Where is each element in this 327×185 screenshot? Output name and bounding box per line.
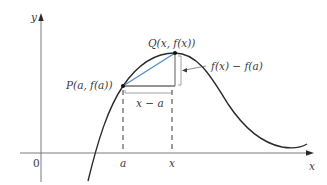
y-axis-label: y bbox=[30, 11, 38, 23]
x-axis-arrow-icon bbox=[306, 150, 314, 155]
rise-bracket bbox=[178, 56, 181, 85]
y-axis-arrow-icon bbox=[38, 13, 43, 21]
rise-leader-arrow-icon bbox=[182, 68, 187, 73]
point-q bbox=[173, 51, 177, 55]
x-axis-label: x bbox=[309, 160, 315, 172]
run-bracket bbox=[125, 90, 172, 93]
secant-line bbox=[123, 53, 175, 86]
point-p bbox=[121, 84, 125, 88]
point-p-label: P(a, f(a)) bbox=[65, 79, 113, 91]
point-q-label: Q(x, f(x)) bbox=[148, 37, 195, 50]
tick-label-a: a bbox=[120, 157, 126, 169]
origin-label: 0 bbox=[33, 157, 40, 169]
rise-label: f(x) − f(a) bbox=[210, 60, 263, 72]
tick-label-x: x bbox=[169, 157, 175, 169]
run-label: x − a bbox=[136, 97, 164, 109]
secant-line-diagram: y x 0 a x P(a, f(a)) Q(x, f(x)) f(x) − f… bbox=[0, 0, 327, 185]
